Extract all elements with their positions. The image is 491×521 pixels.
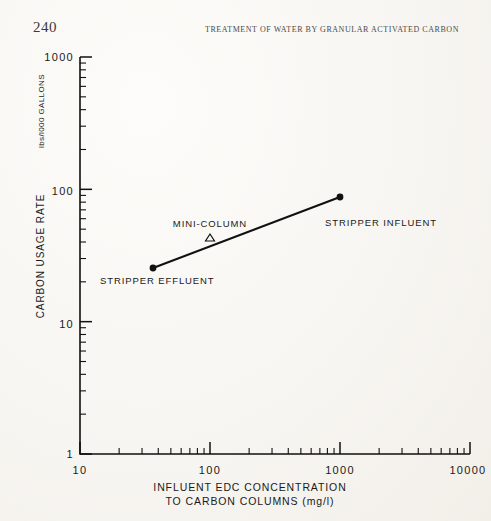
y-tick-label: 1000 bbox=[44, 51, 74, 63]
y-tick-label: 1 bbox=[67, 448, 74, 460]
annotation-mini-column: MINI-COLUMN bbox=[173, 218, 247, 229]
x-axis-ticks bbox=[80, 442, 470, 454]
x-axis-title-line1: INFLUENT EDC CONCENTRATION bbox=[153, 481, 346, 493]
chart-annotations: MINI-COLUMN STRIPPER EFFLUENT STRIPPER I… bbox=[100, 217, 437, 286]
x-axis-title-line2: TO CARBON COLUMNS (mg/l) bbox=[166, 495, 335, 507]
y-tick-label: 100 bbox=[52, 185, 74, 197]
x-axis-title: INFLUENT EDC CONCENTRATION TO CARBON COL… bbox=[153, 481, 346, 507]
data-series-line bbox=[150, 194, 344, 272]
annotation-stripper-influent: STRIPPER INFLUENT bbox=[325, 217, 437, 228]
axis-lines bbox=[80, 57, 470, 454]
x-tick-labels: 10 100 1000 10000 bbox=[73, 464, 487, 476]
annotation-stripper-effluent: STRIPPER EFFLUENT bbox=[100, 275, 215, 286]
x-tick-label: 100 bbox=[199, 464, 221, 476]
x-tick-label: 10000 bbox=[449, 464, 486, 476]
log-log-chart: 10 100 1000 10000 1000 100 10 1 INFLUENT… bbox=[0, 0, 491, 521]
x-tick-label: 10 bbox=[73, 464, 88, 476]
y-tick-label: 10 bbox=[59, 318, 74, 330]
data-point-stripper-effluent bbox=[150, 265, 157, 272]
y-axis-title-units: lbs/l000 GALLONS bbox=[37, 74, 46, 148]
y-axis-ticks bbox=[80, 57, 92, 454]
y-tick-labels: 1000 100 10 1 bbox=[44, 51, 74, 460]
x-tick-label: 1000 bbox=[325, 464, 355, 476]
data-point-stripper-influent bbox=[337, 194, 344, 201]
y-axis-title: CARBON USAGE RATE lbs/l000 GALLONS bbox=[35, 74, 46, 318]
data-point-mini-column bbox=[206, 234, 215, 241]
y-axis-title-main: CARBON USAGE RATE bbox=[35, 194, 46, 319]
